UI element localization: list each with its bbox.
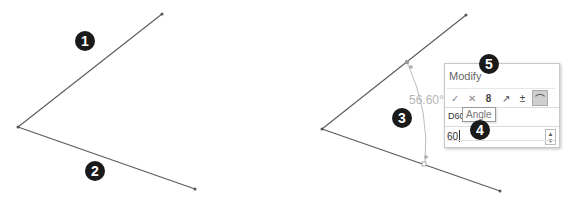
endpoint[interactable] xyxy=(465,14,468,17)
ok-icon[interactable]: ✓ xyxy=(447,91,462,106)
dimension-handle[interactable] xyxy=(405,60,409,64)
modify-dialog[interactable]: Modify ✓ ✕ 8 ↗ ± ⌒ D60 Angle ▲ ▼ xyxy=(444,63,560,148)
spin-up-icon[interactable]: ▲ xyxy=(548,131,554,137)
dimension-handle[interactable] xyxy=(424,155,428,159)
endpoint[interactable] xyxy=(161,13,164,16)
endpoint[interactable] xyxy=(499,190,502,193)
dialog-title: Modify xyxy=(449,70,481,82)
scale-bar xyxy=(447,140,555,145)
endpoint[interactable] xyxy=(17,126,20,129)
sketch-line-2[interactable] xyxy=(18,127,195,189)
cancel-icon[interactable]: ✕ xyxy=(464,91,479,106)
sketch-line-1[interactable] xyxy=(18,14,162,127)
rebuild-icon[interactable]: 8 xyxy=(481,91,496,106)
angle-dimension-value[interactable]: 56.60° xyxy=(409,93,444,107)
angle-dimension-icon[interactable]: ⌒ xyxy=(532,90,548,106)
callout-marker-4: 4 xyxy=(470,120,490,140)
reverse-direction-icon[interactable]: ↗ xyxy=(498,91,513,106)
callout-marker-2: 2 xyxy=(85,161,105,181)
callout-marker-3: 3 xyxy=(392,108,412,128)
dialog-toolbar: ✓ ✕ 8 ↗ ± ⌒ xyxy=(447,88,555,107)
endpoint[interactable] xyxy=(194,188,197,191)
callout-marker-1: 1 xyxy=(75,31,95,51)
endpoint[interactable] xyxy=(321,128,324,131)
dimension-name-row: D60 Angle xyxy=(445,107,559,126)
dimension-handle[interactable] xyxy=(409,65,413,69)
dimension-handle[interactable] xyxy=(422,162,426,166)
callout-marker-5: 5 xyxy=(479,54,499,74)
mark-dimension-icon[interactable]: ± xyxy=(515,91,530,106)
